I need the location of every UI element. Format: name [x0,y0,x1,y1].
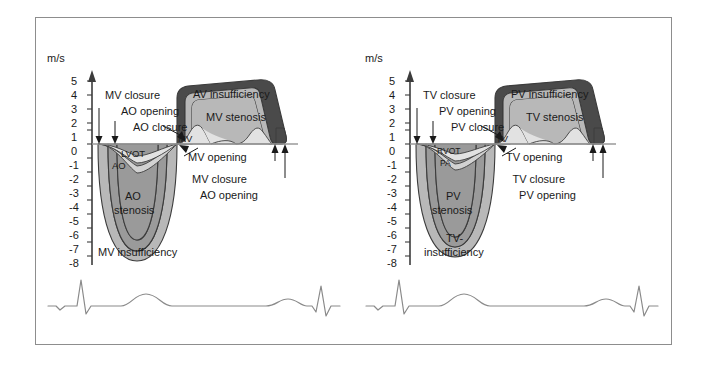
tick-label: 0 [71,145,77,157]
tick-label: -7 [387,243,397,255]
label-pv-insufficiency: PV insufficiency [511,88,589,100]
tick-label: 5 [71,75,77,87]
label-ao-opening-right: AO opening [200,189,258,201]
tick-label: -4 [387,201,397,213]
label-mv-small: MV [178,133,193,144]
label-ao-opening-top: AO opening [121,105,179,117]
tick-label: 3 [389,103,395,115]
right-heart-panel: m/s 5 [354,18,672,344]
label-tv-insufficiency-2: insufficiency [424,246,484,258]
tick-label: -3 [387,187,397,199]
ecg-trace [366,280,658,316]
y-axis [88,70,96,265]
label-tv-stenosis: TV stenosis [526,111,584,123]
label-tv-insufficiency-1: TV- [446,232,463,244]
tick-label: -2 [69,173,79,185]
label-ao-stenosis-1: AO [125,190,141,202]
ecg-trace [48,280,340,316]
tick-label: -3 [69,187,79,199]
tick-label: 1 [389,131,395,143]
tick-label: -5 [387,215,397,227]
label-pv-opening-right: PV opening [519,189,576,201]
tick-label: 4 [389,89,395,101]
label-tv-small: TV [496,133,509,144]
tick-label: -1 [69,159,79,171]
label-tv-closure-right: TV closure [512,173,565,185]
label-mv-insufficiency: MV insufficiency [98,246,178,258]
label-tv-closure-top: TV closure [423,89,476,101]
tick-label: -6 [387,229,397,241]
y-axis-unit-label: m/s [47,52,65,64]
tick-label: -5 [69,215,79,227]
tick-label: 2 [389,117,395,129]
label-pv-stenosis-2: stenosis [432,204,473,216]
label-rvot: RVOT [437,146,460,156]
label-ao: AO [112,160,126,171]
tick-label: -8 [69,257,79,269]
label-mv-stenosis: MV stenosis [206,111,266,123]
tick-label: -2 [387,173,397,185]
label-pv-stenosis-1: PV [446,190,461,202]
y-axis-unit-label: m/s [365,52,383,64]
region-closure-bar [594,128,604,144]
tick-label: -7 [69,243,79,255]
region-closure-bar [276,128,286,144]
left-panel-plot: m/s [36,18,354,344]
label-tv-opening: TV opening [506,151,562,163]
label-av-insufficiency: AV insufficiency [193,88,270,100]
tick-label: 2 [71,117,77,129]
right-panel-plot: m/s 5 [354,18,672,344]
label-lvot: LVOT [121,148,145,159]
label-ao-stenosis-2: stenosis [114,204,155,216]
y-axis-tick-labels: 5 4 3 2 1 0 -1 -2 -3 -4 -5 -6 -7 -8 [69,75,79,269]
label-mv-closure-right: MV closure [192,173,247,185]
tick-label: 4 [71,89,77,101]
label-mv-closure-top: MV closure [105,89,160,101]
y-axis-tick-labels: 5 4 3 2 1 0 -1 -2 -3 -4 -5 -6 -7 -8 [387,75,397,269]
tick-label: 1 [71,131,77,143]
left-heart-panel: m/s [36,18,354,344]
figure-frame: m/s [35,17,672,345]
tick-label: 5 [389,75,395,87]
tick-label: 3 [71,103,77,115]
label-pv-closure-top: PV closure [451,121,504,133]
tick-label: -6 [69,229,79,241]
tick-label: 0 [389,145,395,157]
tick-label: -4 [69,201,79,213]
label-pv-opening-top: PV opening [439,105,496,117]
label-mv-opening: MV opening [188,151,247,163]
tick-label: -8 [387,257,397,269]
label-pa: PA [440,158,451,168]
label-ao-closure-top: AO closure [133,121,187,133]
tick-label: -1 [387,159,397,171]
y-axis [406,70,414,265]
